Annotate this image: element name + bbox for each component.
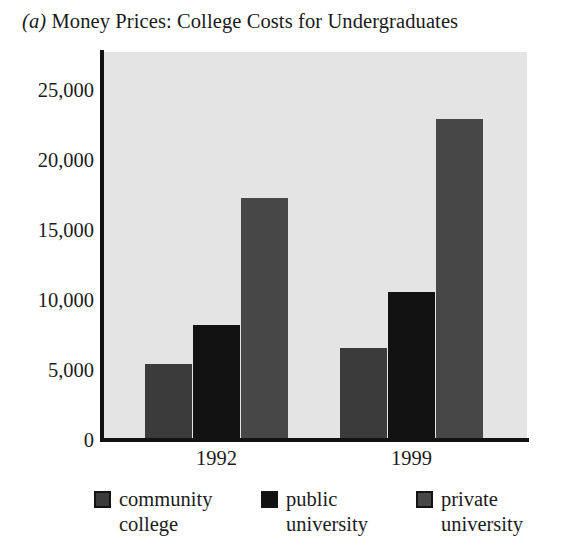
bar-public-university-1992	[193, 325, 240, 440]
chart-title-text: Money Prices: College Costs for Undergra…	[51, 10, 458, 32]
bar-public-university-1999	[388, 292, 435, 440]
legend-item-public-university: public university	[261, 487, 368, 537]
y-axis-tick-label: 10,000	[2, 290, 94, 311]
x-axis-group-label: 1992	[157, 446, 277, 470]
chart-legend: community collegepublic universityprivat…	[94, 487, 514, 549]
bar-community-college-1999	[340, 348, 387, 440]
private-university-swatch	[416, 491, 433, 508]
legend-label: private university	[441, 487, 523, 537]
legend-label: community college	[119, 487, 212, 537]
y-axis-tick-label: 0	[2, 430, 94, 451]
y-axis-tick-label: 5,000	[2, 360, 94, 381]
bars-layer	[103, 52, 527, 440]
legend-label: public university	[286, 487, 368, 537]
y-axis-tick-label: 20,000	[2, 150, 94, 171]
chart-title: (a) Money Prices: College Costs for Unde…	[22, 8, 542, 34]
bar-private-university-1999	[436, 119, 483, 440]
y-axis-tick-label: 15,000	[2, 220, 94, 241]
legend-item-community-college: community college	[94, 487, 212, 537]
bar-private-university-1992	[241, 198, 288, 440]
legend-item-private-university: private university	[416, 487, 523, 537]
bar-community-college-1992	[145, 364, 192, 440]
community-college-swatch	[94, 491, 111, 508]
chart-figure: (a) Money Prices: College Costs for Unde…	[0, 0, 562, 560]
public-university-swatch	[261, 491, 278, 508]
x-axis-group-label: 1999	[352, 446, 472, 470]
x-axis-line	[100, 438, 529, 442]
y-axis-line	[100, 50, 104, 442]
y-axis-tick-labels: 05,00010,00015,00020,00025,000	[0, 0, 94, 560]
y-axis-tick-label: 25,000	[2, 80, 94, 101]
